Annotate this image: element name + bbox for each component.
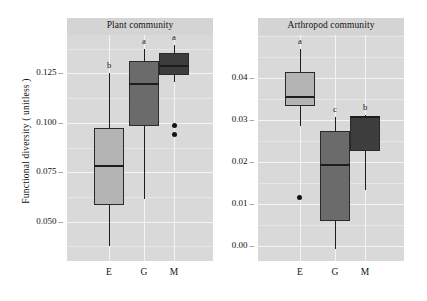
- gridline-minor: [67, 49, 213, 50]
- y-tick-arthropod-0.00: 0.00–: [232, 240, 254, 250]
- gridline-minor: [67, 197, 213, 198]
- plot-area-plant: baa: [67, 35, 213, 261]
- significance-letter-arthropod-G: c: [328, 104, 342, 114]
- boxplot-figure: Functional diversity ( unitless ) Plant …: [0, 0, 427, 301]
- x-tick-arthropod-M: M: [355, 267, 375, 277]
- gridline-minor: [258, 57, 404, 58]
- y-axis-title: Functional diversity ( unitless ): [21, 41, 31, 241]
- gridline-major: [258, 120, 404, 121]
- x-tick-plant-M: M: [164, 267, 184, 277]
- box-arthropod-M[interactable]: [350, 117, 380, 151]
- x-tick-plant-E: E: [99, 267, 119, 277]
- panel-strip-plant: Plant community: [67, 18, 213, 35]
- panel-plant: Plant communitybaa: [67, 18, 213, 261]
- significance-letter-plant-G: a: [137, 36, 151, 46]
- outlier-point-plant-M-1[interactable]: [172, 132, 177, 137]
- box-arthropod-G[interactable]: [320, 131, 350, 221]
- y-tick-plant-0.125: 0.125–: [36, 67, 63, 77]
- gridline-minor: [258, 99, 404, 100]
- y-tick-arthropod-0.01: 0.01–: [232, 198, 254, 208]
- median-line-arthropod-M: [350, 116, 380, 118]
- gridline-minor: [67, 246, 213, 247]
- box-plant-M[interactable]: [159, 53, 189, 75]
- gridline-minor: [258, 36, 404, 37]
- panel-title-arthropod: Arthropod community: [258, 20, 404, 30]
- x-tick-arthropod-G: G: [325, 267, 345, 277]
- y-tick-arthropod-0.04: 0.04–: [232, 72, 254, 82]
- median-line-arthropod-E: [285, 96, 315, 98]
- y-tick-plant-0.050: 0.050–: [36, 216, 63, 226]
- gridline-major: [258, 246, 404, 247]
- median-line-plant-E: [94, 165, 124, 167]
- significance-letter-plant-M: a: [167, 35, 181, 42]
- significance-letter-arthropod-E: a: [293, 36, 307, 46]
- y-tick-plant-0.100: 0.100–: [36, 117, 63, 127]
- y-tick-arthropod-0.03: 0.03–: [232, 114, 254, 124]
- x-tick-arthropod-E: E: [290, 267, 310, 277]
- panel-title-plant: Plant community: [67, 20, 213, 30]
- y-tick-plant-0.075: 0.075–: [36, 166, 63, 176]
- median-line-plant-M: [159, 65, 189, 67]
- gridline-major: [67, 222, 213, 223]
- outlier-point-plant-M-0[interactable]: [172, 123, 177, 128]
- box-plant-G[interactable]: [129, 61, 159, 126]
- outlier-point-arthropod-E-0[interactable]: [297, 195, 302, 200]
- panel-arthropod: Arthropod communityacb: [258, 18, 404, 261]
- gridline-minor: [67, 148, 213, 149]
- gridline-major: [258, 78, 404, 79]
- box-arthropod-E[interactable]: [285, 72, 315, 106]
- significance-letter-arthropod-M: b: [358, 102, 372, 112]
- median-line-plant-G: [129, 83, 159, 85]
- significance-letter-plant-E: b: [102, 60, 116, 70]
- x-tick-plant-G: G: [134, 267, 154, 277]
- gridline-major: [67, 172, 213, 173]
- y-tick-arthropod-0.02: 0.02–: [232, 156, 254, 166]
- median-line-arthropod-G: [320, 164, 350, 166]
- panel-strip-arthropod: Arthropod community: [258, 18, 404, 35]
- gridline-minor: [258, 225, 404, 226]
- plot-area-arthropod: acb: [258, 35, 404, 261]
